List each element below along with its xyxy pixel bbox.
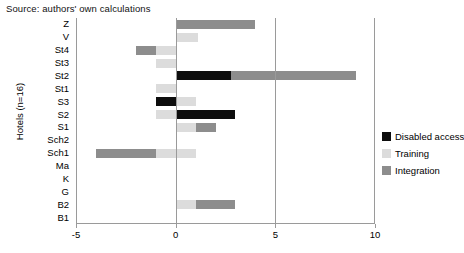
bar-segment-Z-integration (176, 20, 256, 29)
bar-segment-St4-integration (136, 46, 156, 55)
y-tick-label-V: V (63, 32, 69, 42)
bar-segment-St1-training (156, 84, 176, 93)
legend-item-disabled[interactable]: Disabled access (382, 128, 464, 145)
bar-segment-S3-disabled (156, 97, 176, 106)
x-tick-label-0: 0 (156, 229, 196, 240)
chart-legend: Disabled accessTrainingIntegration (382, 128, 464, 179)
x-tick-label-10: 10 (355, 229, 395, 240)
y-tick-label-St4: St4 (55, 45, 69, 55)
bar-segment-S1-integration (196, 123, 216, 132)
x-tick-label--5: -5 (56, 229, 96, 240)
y-tick-label-G: G (62, 187, 69, 197)
bar-segment-St2-disabled (176, 71, 232, 80)
x-tick-0 (176, 224, 177, 228)
gridline-0 (176, 18, 177, 224)
bar-segment-St2-integration (231, 71, 356, 80)
source-note: Source: authors' own calculations (6, 3, 151, 14)
y-tick-label-St2: St2 (55, 71, 69, 81)
y-tick-label-B2: B2 (57, 200, 69, 210)
bar-segment-St3-training (156, 59, 176, 68)
y-tick-label-S1: S1 (57, 122, 69, 132)
legend-swatch-disabled-icon (382, 132, 391, 141)
y-tick-label-St1: St1 (55, 84, 69, 94)
y-tick-label-Z: Z (63, 19, 69, 29)
y-tick-label-K: K (63, 174, 69, 184)
bar-segment-St4-training (156, 46, 176, 55)
legend-item-training[interactable]: Training (382, 145, 464, 162)
bar-segment-Sch1-integration (96, 149, 156, 158)
category-labels: ZVSt4St3St2St1S3S2S1Sch2Sch1MaKGB2B1 (0, 18, 74, 224)
x-tick-10 (375, 224, 376, 228)
y-tick-label-Ma: Ma (56, 161, 69, 171)
y-tick-label-Sch2: Sch2 (47, 135, 69, 145)
y-tick-label-S3: S3 (57, 97, 69, 107)
axis-frame (76, 18, 375, 224)
x-tick-5 (275, 224, 276, 228)
gridline-5 (275, 18, 276, 224)
bar-segment-S2-disabled (176, 110, 236, 119)
bar-segment-B2-integration (196, 200, 236, 209)
y-tick-label-S2: S2 (57, 110, 69, 120)
legend-label-integration: Integration (395, 165, 440, 176)
y-tick-label-B1: B1 (57, 213, 69, 223)
bar-segment-B2-training (176, 200, 196, 209)
chart-plot-area (76, 18, 375, 224)
bar-segment-V-training (176, 33, 198, 42)
y-tick-label-Sch1: Sch1 (47, 148, 69, 158)
bar-segment-S3-training (176, 97, 196, 106)
bar-segment-S2-training (156, 110, 176, 119)
legend-swatch-integration-icon (382, 166, 391, 175)
legend-label-training: Training (395, 148, 429, 159)
legend-swatch-training-icon (382, 149, 391, 158)
legend-label-disabled: Disabled access (395, 131, 464, 142)
x-tick-label-5: 5 (255, 229, 295, 240)
x-tick--5 (76, 224, 77, 228)
legend-item-integration[interactable]: Integration (382, 162, 464, 179)
y-tick-label-St3: St3 (55, 58, 69, 68)
bar-segment-S1-training (176, 123, 196, 132)
